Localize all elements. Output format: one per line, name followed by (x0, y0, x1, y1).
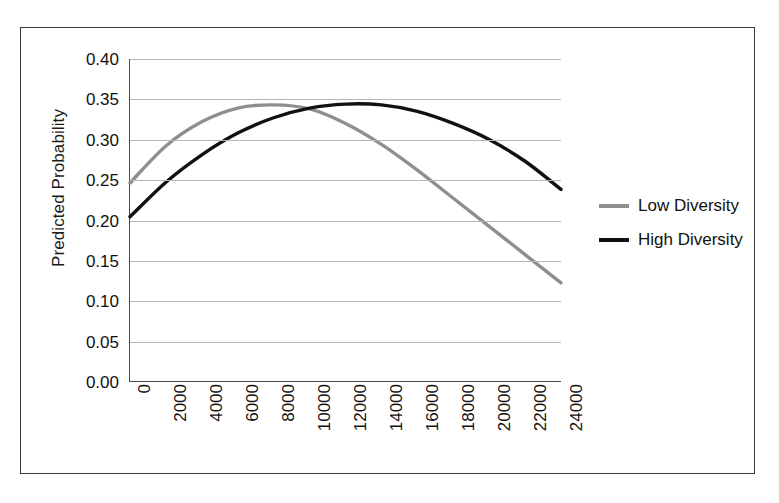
y-tick-label: 0.05 (63, 333, 119, 350)
x-tick-label: 10000 (316, 384, 333, 431)
y-tick-label: 0.00 (63, 374, 119, 391)
x-axis-tick-labels: 0200040006000800010000120001400016000180… (129, 384, 569, 474)
x-tick-label: 8000 (280, 384, 297, 422)
x-tick-label: 16000 (424, 384, 441, 431)
y-tick-label: 0.20 (63, 212, 119, 229)
x-tick-label: 18000 (460, 384, 477, 431)
gridline (130, 221, 561, 222)
x-tick-label: 14000 (388, 384, 405, 431)
y-axis-tick-labels: 0.400.350.300.250.200.150.100.050.00 (63, 59, 119, 382)
x-tick-label: 24000 (568, 384, 585, 431)
x-tick-label: 12000 (352, 384, 369, 431)
figure-frame: Predicted Probability 0.400.350.300.250.… (20, 27, 755, 474)
legend-item[interactable]: High Diversity (599, 225, 749, 255)
legend-swatch (599, 204, 629, 208)
x-tick-label: 6000 (244, 384, 261, 422)
legend-label: High Diversity (638, 230, 743, 250)
x-tick-label: 2000 (172, 384, 189, 422)
y-tick-label: 0.25 (63, 172, 119, 189)
plot-area (129, 59, 561, 382)
legend-item[interactable]: Low Diversity (599, 191, 749, 221)
x-tick-label: 20000 (496, 384, 513, 431)
chart-legend: Low DiversityHigh Diversity (599, 191, 749, 259)
x-tick-label: 4000 (208, 384, 225, 422)
gridline (130, 342, 561, 343)
gridline (130, 180, 561, 181)
series-line (130, 105, 561, 283)
y-tick-label: 0.40 (63, 51, 119, 68)
y-tick-label: 0.10 (63, 293, 119, 310)
gridline (130, 261, 561, 262)
y-tick-label: 0.35 (63, 91, 119, 108)
x-tick-label: 0 (136, 384, 153, 393)
gridline (130, 140, 561, 141)
gridline (130, 99, 561, 100)
legend-swatch (599, 238, 629, 242)
legend-label: Low Diversity (638, 196, 739, 216)
y-tick-label: 0.15 (63, 252, 119, 269)
y-tick-label: 0.30 (63, 131, 119, 148)
series-line (130, 104, 561, 217)
x-tick-label: 22000 (532, 384, 549, 431)
gridline (130, 59, 561, 60)
gridline (130, 301, 561, 302)
